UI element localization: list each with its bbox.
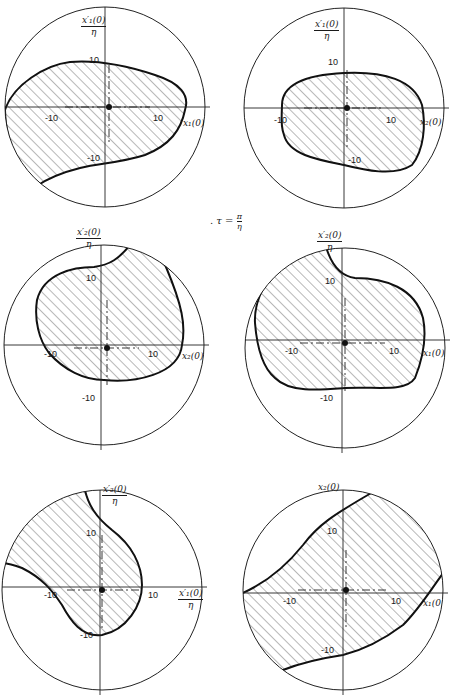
y-axis-label: x′₁(0)η bbox=[81, 15, 106, 38]
tick-y-neg: -10 bbox=[87, 153, 100, 163]
tick-y-pos: 10 bbox=[86, 273, 96, 283]
panel-5: x′₂(0)η x′₁(0)η 10 -10 -10 10 bbox=[2, 490, 207, 695]
tick-x-pos: 10 bbox=[391, 596, 401, 606]
tick-x-neg: -10 bbox=[44, 349, 57, 359]
tick-x-neg: -10 bbox=[283, 596, 296, 606]
y-axis-label: x′₂(0)η bbox=[317, 230, 342, 253]
x-axis-label: x₂(0) bbox=[420, 117, 441, 127]
tick-y-neg: -10 bbox=[320, 393, 333, 403]
tick-y-pos: 10 bbox=[325, 276, 335, 286]
tick-x-pos: 10 bbox=[153, 113, 163, 123]
figure-caption: . τ = πη bbox=[210, 212, 242, 231]
phase-plot-2 bbox=[244, 5, 449, 210]
tick-y-neg: -10 bbox=[348, 155, 361, 165]
tick-y-neg: -10 bbox=[80, 630, 93, 640]
x-axis-label: x₁(0) bbox=[183, 118, 204, 128]
x-axis-label: x′₁(0)η bbox=[178, 588, 203, 611]
x-axis-label: x₁(0) bbox=[423, 348, 444, 358]
y-axis-label: x′₂(0)η bbox=[102, 484, 127, 507]
panel-6: x₂(0) x₁(0 10 -10 -10 10 bbox=[243, 490, 448, 695]
phase-plot-6 bbox=[243, 490, 448, 695]
x-axis-label: x₁(0 bbox=[423, 598, 441, 608]
tick-y-pos: 10 bbox=[89, 55, 99, 65]
tick-y-pos: 10 bbox=[86, 528, 96, 538]
phase-plot-4 bbox=[245, 248, 450, 453]
y-axis-label: x′₁(0)η bbox=[314, 19, 339, 42]
tick-y-pos: 10 bbox=[327, 526, 337, 536]
tick-x-neg: -10 bbox=[285, 346, 298, 356]
tick-y-neg: -10 bbox=[82, 393, 95, 403]
tick-x-pos: 10 bbox=[389, 346, 399, 356]
x-axis-label: x₂(0) bbox=[182, 351, 203, 361]
tick-x-pos: 10 bbox=[386, 115, 396, 125]
tick-y-neg: -10 bbox=[321, 645, 334, 655]
panel-3: x′₂(0)η x₂(0) 10 -10 -10 10 bbox=[4, 245, 209, 450]
tick-x-pos: 10 bbox=[148, 590, 158, 600]
phase-plot-1 bbox=[5, 5, 210, 210]
tick-x-neg: -10 bbox=[45, 113, 58, 123]
phase-plot-5 bbox=[2, 490, 207, 695]
phase-plot-3 bbox=[4, 245, 209, 450]
tick-x-neg: -10 bbox=[274, 115, 287, 125]
panel-4: x′₂(0)η x₁(0) 10 -10 -10 10 bbox=[245, 248, 450, 453]
y-axis-label: x₂(0) bbox=[318, 482, 339, 492]
tick-x-neg: -10 bbox=[44, 590, 57, 600]
y-axis-label: x′₂(0)η bbox=[76, 227, 101, 250]
panel-2: x′₁(0)η x₂(0) 10 -10 -10 10 bbox=[244, 5, 449, 210]
panel-1: x′₁(0)η x₁(0) 10 -10 -10 10 bbox=[5, 5, 210, 210]
tick-x-pos: 10 bbox=[148, 349, 158, 359]
tick-y-pos: 10 bbox=[328, 57, 338, 67]
